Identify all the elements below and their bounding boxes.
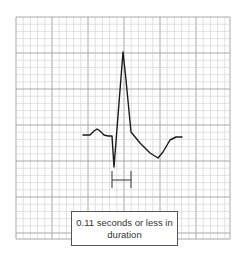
ecg-grid-paper — [16, 17, 230, 239]
duration-label-box: 0.11 seconds or less in duration — [71, 211, 178, 246]
duration-label-text: 0.11 seconds or less in duration — [75, 217, 174, 241]
qrs-duration-caliper — [112, 171, 131, 188]
